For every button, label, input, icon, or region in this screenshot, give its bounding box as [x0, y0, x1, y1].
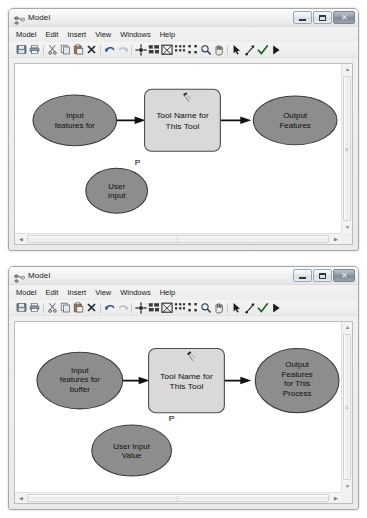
scroll-up-arrow-icon[interactable]: ▲: [342, 322, 353, 333]
pan-tool-icon[interactable]: [212, 43, 225, 56]
redo-icon[interactable]: [116, 301, 129, 314]
run-icon[interactable]: [269, 43, 282, 56]
model-diagram-icon: [14, 270, 25, 281]
user-variable-node[interactable]: User Input P: [86, 159, 148, 214]
run-icon[interactable]: [269, 301, 282, 314]
scroll-down-arrow-icon[interactable]: ▼: [342, 481, 353, 492]
vertical-scrollbar[interactable]: ▲ ≡ ▼: [341, 322, 352, 492]
select-tool-icon[interactable]: [230, 43, 243, 56]
validate-icon[interactable]: [256, 43, 269, 56]
scroll-right-arrow-icon[interactable]: ▶: [330, 234, 341, 245]
user-variable-node[interactable]: User Input Value P: [92, 414, 175, 476]
menu-item-insert[interactable]: Insert: [67, 288, 86, 297]
connect-tool-icon[interactable]: [243, 301, 256, 314]
window-controls: ✕: [293, 11, 355, 24]
menu-item-view[interactable]: View: [95, 288, 111, 297]
menu-item-windows[interactable]: Windows: [120, 288, 150, 297]
pan-tool-icon[interactable]: [212, 301, 225, 314]
print-icon[interactable]: [28, 43, 41, 56]
output-variable-node[interactable]: Output Features: [253, 96, 337, 145]
connector-tool-to-output: [219, 117, 251, 125]
minimize-glyph: [299, 277, 306, 279]
print-icon[interactable]: [28, 301, 41, 314]
maximize-button[interactable]: [313, 269, 332, 282]
vertical-scroll-thumb[interactable]: ≡: [343, 334, 351, 480]
scroll-left-arrow-icon[interactable]: ◀: [15, 493, 26, 504]
horizontal-scrollbar[interactable]: ◀ ⋮ ▶: [15, 492, 341, 503]
scrollbar-corner: [341, 233, 352, 244]
horizontal-scroll-thumb[interactable]: ⋮: [27, 494, 329, 502]
menu-item-model[interactable]: Model: [16, 30, 36, 39]
tool-label-line1: Tool Name for: [160, 372, 213, 381]
model-canvas[interactable]: Input features for buffer Tool Name for …: [15, 322, 341, 492]
undo-icon[interactable]: [103, 301, 116, 314]
zoom-out-layout-icon[interactable]: [186, 301, 199, 314]
menu-item-help[interactable]: Help: [160, 288, 175, 297]
save-icon[interactable]: [15, 43, 28, 56]
user-variable-label-line2: Input: [108, 191, 127, 200]
connect-tool-icon[interactable]: [243, 43, 256, 56]
cut-icon[interactable]: [46, 43, 59, 56]
menu-item-help[interactable]: Help: [160, 30, 175, 39]
title-bar[interactable]: Model ✕: [9, 9, 358, 27]
close-button[interactable]: ✕: [333, 269, 355, 282]
zoom-in-layout-icon[interactable]: [173, 301, 186, 314]
menu-item-edit[interactable]: Edit: [45, 288, 58, 297]
scroll-up-arrow-icon[interactable]: ▲: [342, 64, 353, 75]
toolbar-separator: [43, 45, 44, 55]
menu-item-windows[interactable]: Windows: [120, 30, 150, 39]
paste-icon[interactable]: [72, 43, 85, 56]
menu-item-view[interactable]: View: [95, 30, 111, 39]
tool-node[interactable]: Tool Name for This Tool: [149, 348, 225, 412]
vertical-scroll-thumb[interactable]: ≡: [343, 76, 351, 221]
add-data-icon[interactable]: [134, 43, 147, 56]
delete-icon[interactable]: [85, 43, 98, 56]
horizontal-scrollbar[interactable]: ◀ ⋮ ▶: [15, 233, 341, 244]
full-extent-icon[interactable]: [160, 43, 173, 56]
copy-icon[interactable]: [59, 301, 72, 314]
title-bar[interactable]: Model ✕: [9, 267, 358, 285]
zoom-in-layout-icon[interactable]: [173, 43, 186, 56]
full-extent-icon[interactable]: [160, 301, 173, 314]
zoom-out-layout-icon[interactable]: [186, 43, 199, 56]
close-button[interactable]: ✕: [333, 11, 355, 24]
menu-item-edit[interactable]: Edit: [45, 30, 58, 39]
add-data-icon[interactable]: [134, 301, 147, 314]
horizontal-scroll-thumb[interactable]: ⋮: [27, 235, 329, 243]
zoom-tool-icon[interactable]: [199, 43, 212, 56]
delete-icon[interactable]: [85, 301, 98, 314]
save-icon[interactable]: [15, 301, 28, 314]
minimize-button[interactable]: [293, 269, 312, 282]
menu-item-model[interactable]: Model: [16, 288, 36, 297]
zoom-tool-icon[interactable]: [199, 301, 212, 314]
minimize-button[interactable]: [293, 11, 312, 24]
paste-icon[interactable]: [72, 301, 85, 314]
maximize-button[interactable]: [313, 11, 332, 24]
cut-icon[interactable]: [46, 301, 59, 314]
input-variable-label-line1: Input: [71, 366, 90, 375]
parameter-flag-label: P: [135, 159, 141, 168]
menu-item-insert[interactable]: Insert: [67, 30, 86, 39]
vertical-scrollbar[interactable]: ▲ ≡ ▼: [341, 64, 352, 233]
tool-node[interactable]: Tool Name for This Tool: [145, 89, 221, 151]
tool-label-line2: This Tool: [166, 122, 200, 131]
toolbar-separator: [131, 303, 132, 313]
scroll-right-arrow-icon[interactable]: ▶: [330, 493, 341, 504]
output-variable-node[interactable]: Output Features for This Process: [255, 348, 339, 412]
toolbar: [9, 300, 358, 316]
screenshot-root: Model ✕ Model Edit Insert View Windows H…: [0, 0, 367, 518]
maximize-glyph: [319, 273, 326, 279]
model-canvas[interactable]: Input features for Tool Name for This To…: [15, 64, 341, 233]
undo-icon[interactable]: [103, 43, 116, 56]
auto-layout-icon[interactable]: [147, 301, 160, 314]
redo-icon[interactable]: [116, 43, 129, 56]
scroll-left-arrow-icon[interactable]: ◀: [15, 234, 26, 245]
scroll-thumb-grip-icon: ⋮: [175, 496, 180, 501]
scroll-down-arrow-icon[interactable]: ▼: [342, 222, 353, 233]
input-variable-node[interactable]: Input features for: [33, 95, 117, 146]
validate-icon[interactable]: [256, 301, 269, 314]
auto-layout-icon[interactable]: [147, 43, 160, 56]
select-tool-icon[interactable]: [230, 301, 243, 314]
input-variable-node[interactable]: Input features for buffer: [37, 352, 123, 409]
copy-icon[interactable]: [59, 43, 72, 56]
